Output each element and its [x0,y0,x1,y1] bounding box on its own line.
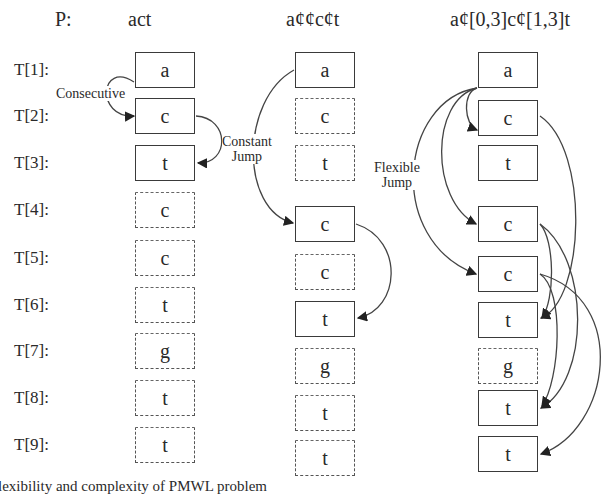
figure-caption: lexibility and complexity of PMWL proble… [0,478,267,495]
cell-c1-r6: t [135,287,195,323]
cell-c3-r3: t [478,145,538,181]
constant-jump-label: Constant Jump [222,134,272,164]
cell-c3-r5: c [478,256,538,292]
row-label-1: T[1]: [14,60,49,80]
pattern-constant: a¢¢c¢t [286,8,339,31]
cell-c3-r4: c [478,206,538,242]
flexible-jump-label: Flexible Jump [374,160,420,190]
cell-c1-r8: t [135,380,195,416]
constant-label-line2: Jump [232,149,262,164]
row-label-2: T[2]: [14,106,49,126]
cell-c1-r3: t [135,145,195,181]
p-label: P: [55,8,72,31]
pattern-flexible: a¢[0,3]c¢[1,3]t [450,8,570,31]
row-label-5: T[5]: [14,248,49,268]
cell-c1-r4: c [135,192,195,228]
cell-c3-r2: c [478,100,538,136]
consecutive-label: Consecutive [56,86,125,101]
row-label-8: T[8]: [14,388,49,408]
cell-c1-r7: g [135,333,195,369]
row-label-7: T[7]: [14,341,49,361]
cell-c3-r7: g [478,348,538,384]
row-label-4: T[4]: [14,200,49,220]
cell-c1-r9: t [135,427,195,463]
cell-c3-r6: t [478,302,538,338]
cell-c2-r7: g [295,348,355,384]
constant-label-line1: Constant [222,134,272,149]
cell-c2-r9: t [295,440,355,476]
cell-c2-r1: a [295,52,355,88]
cell-c2-r3: t [295,145,355,181]
row-label-6: T[6]: [14,295,49,315]
flexible-label-line1: Flexible [374,160,420,175]
cell-c3-r8: t [478,390,538,426]
row-label-9: T[9]: [14,435,49,455]
cell-c3-r9: t [478,436,538,472]
pattern-consecutive: act [128,8,151,31]
cell-c1-r1: a [135,52,195,88]
cell-c2-r5: c [295,254,355,290]
row-label-3: T[3]: [14,153,49,173]
cell-c2-r6: t [295,301,355,337]
cell-c2-r4: c [295,206,355,242]
cell-c3-r1: a [478,52,538,88]
cell-c1-r2: c [135,98,195,134]
cell-c2-r8: t [295,395,355,431]
cell-c1-r5: c [135,240,195,276]
flexible-label-line2: Jump [382,175,412,190]
cell-c2-r2: c [295,98,355,134]
